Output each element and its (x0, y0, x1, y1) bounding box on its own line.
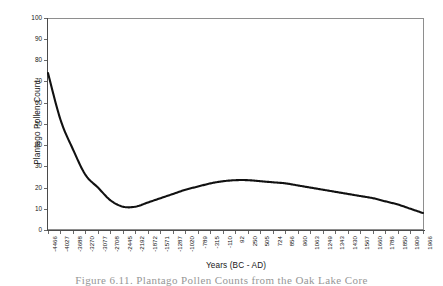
series-line-plantago (48, 73, 423, 213)
figure-caption: Figure 6.11. Plantago Pollen Counts from… (0, 274, 443, 286)
